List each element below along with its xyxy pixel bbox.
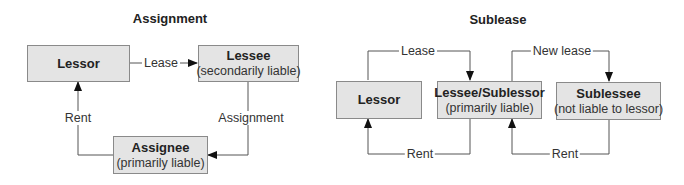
box-name: Lessee/Sublessor [434,85,545,101]
assignment-lessee-box: Lessee (secondarily liable) [198,45,299,82]
box-name: Lessor [358,92,401,108]
sublease-rent-label-2: Rent [550,147,580,161]
box-subtitle: (primarily liable) [116,156,204,171]
box-subtitle: (primarily liable) [445,101,533,116]
box-subtitle: (not liable to lessor) [554,102,663,117]
rent-arrow-label: Rent [63,111,93,125]
assignment-lessor-box: Lessor [27,45,130,82]
sublease-rent-label-1: Rent [405,147,435,161]
sublease-title: Sublease [469,12,526,27]
assignment-arrow-label: Assignment [216,111,285,125]
lease-arrow-label: Lease [142,56,180,70]
sublease-lessor-box: Lessor [336,81,422,119]
assignment-title: Assignment [133,11,207,26]
box-name: Lessee [226,48,270,64]
sublease-new-lease-label: New lease [531,44,593,58]
sublease-sublessee-box: Sublessee (not liable to lessor) [556,82,661,120]
assignment-assignee-box: Assignee (primarily liable) [113,136,208,174]
sublease-sublessor-box: Lessee/Sublessor (primarily liable) [437,81,542,119]
box-name: Assignee [132,140,190,156]
box-name: Lessor [57,56,100,72]
box-name: Sublessee [576,86,640,102]
sublease-lease-label: Lease [399,44,437,58]
box-subtitle: (secondarily liable) [196,64,300,79]
